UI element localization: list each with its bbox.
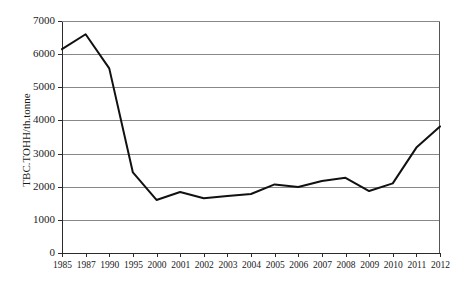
- x-tick-label: 2000: [148, 260, 167, 270]
- x-tick-label: 1985: [53, 260, 72, 270]
- y-tick-label: 1000: [33, 213, 56, 225]
- x-tick-label: 2011: [408, 260, 427, 270]
- y-tick-label: 2000: [33, 180, 56, 192]
- y-tick-label: 3000: [33, 147, 56, 159]
- y-tick-label: 5000: [33, 80, 56, 92]
- x-tick-label: 2005: [266, 260, 285, 270]
- y-tick-label: 7000: [33, 14, 56, 26]
- x-tick-label: 2002: [195, 260, 214, 270]
- line-chart: 01000200030004000500060007000 1985198719…: [0, 0, 458, 288]
- x-tick-label: 2001: [171, 260, 190, 270]
- x-tick-label: 1995: [124, 260, 143, 270]
- x-tick-label: 1990: [100, 260, 119, 270]
- x-tick-label: 2012: [431, 260, 450, 270]
- x-tick-label: 1987: [77, 260, 96, 270]
- y-axis-title: TBC.TOHH/th.tonne: [20, 93, 32, 186]
- y-tick-label: 4000: [33, 113, 56, 125]
- chart-background: [0, 0, 458, 288]
- x-tick-label: 2006: [289, 260, 308, 270]
- x-axis-tick-labels: 1985198719901995200020012002200320042005…: [53, 260, 450, 270]
- x-tick-label: 2009: [360, 260, 379, 270]
- y-tick-label: 0: [50, 246, 56, 258]
- x-tick-label: 2007: [313, 260, 332, 270]
- chart-canvas: 01000200030004000500060007000 1985198719…: [0, 0, 458, 288]
- x-tick-label: 2003: [218, 260, 237, 270]
- x-tick-label: 2010: [384, 260, 403, 270]
- y-tick-label: 6000: [33, 47, 56, 59]
- x-tick-label: 2004: [242, 260, 261, 270]
- x-tick-label: 2008: [337, 260, 356, 270]
